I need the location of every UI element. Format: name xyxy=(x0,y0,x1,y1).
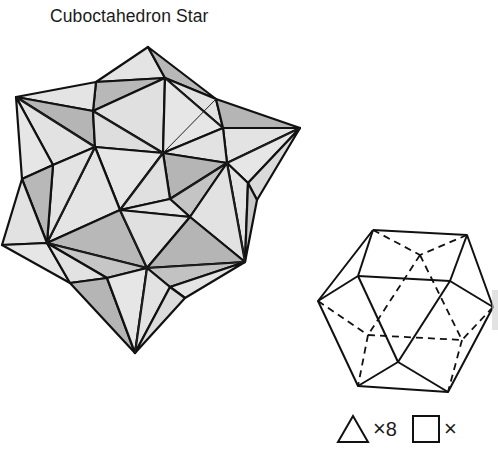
triangle-count: 8 xyxy=(386,418,397,440)
triangle-icon xyxy=(336,414,370,444)
star-faces xyxy=(2,47,300,353)
face-count-legend: ×8 × xyxy=(336,412,471,446)
multiplier-symbol: × xyxy=(444,416,457,441)
star-polyhedron-figure xyxy=(0,0,498,453)
square-icon xyxy=(411,414,441,444)
multiplier-symbol: × xyxy=(373,416,386,441)
legend-item-triangle: ×8 xyxy=(336,414,397,444)
edge-artifact xyxy=(492,290,498,330)
legend-item-square: × xyxy=(411,414,457,444)
cuboctahedron-wireframe xyxy=(318,230,493,392)
